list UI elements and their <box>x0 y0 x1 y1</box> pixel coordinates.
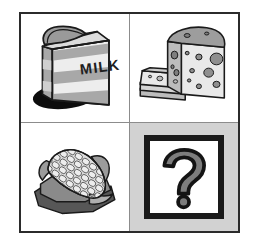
question-mark-dot <box>178 196 189 207</box>
matrix-cell-corn[interactable]: Corn on the cob with husk <box>21 123 130 232</box>
matrix-figure: Milk carton <box>0 0 259 244</box>
question-mark-icon <box>150 141 219 214</box>
matrix-cell-unknown[interactable]: Unknown / missing item <box>130 123 239 232</box>
matrix-frame: Milk carton <box>19 12 240 233</box>
milk-side-face <box>43 46 53 100</box>
matrix-cell-cheese[interactable]: Swiss cheese block with slices <box>130 14 239 123</box>
corn-cob-icon <box>21 123 129 232</box>
cell-label-unknown: Unknown / missing item <box>130 123 131 124</box>
question-box <box>144 135 225 220</box>
matrix-cell-milk[interactable]: Milk carton <box>21 14 130 123</box>
milk-carton-icon: MILK <box>21 14 129 122</box>
question-mark-hook <box>164 149 204 193</box>
swiss-cheese-icon <box>130 14 239 122</box>
cheese-left-face <box>167 41 181 94</box>
